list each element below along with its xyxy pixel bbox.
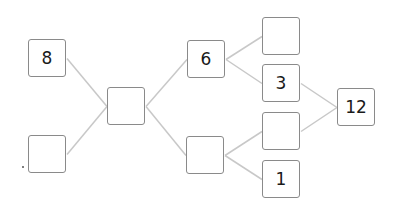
box-12: 12 [337, 88, 375, 126]
box-empty-right-third[interactable] [262, 112, 300, 150]
number-bond-diagram: 8 6 3 1 12 [0, 0, 396, 210]
connector-line [301, 84, 337, 108]
box-empty-center[interactable] [107, 87, 145, 125]
stray-dot [22, 166, 24, 168]
box-1: 1 [262, 160, 300, 198]
box-3: 3 [262, 64, 300, 102]
connector-line [301, 108, 337, 132]
connector-line [67, 107, 107, 155]
connector-line [146, 107, 186, 156]
box-value: 1 [276, 169, 287, 189]
box-value: 3 [276, 73, 287, 93]
box-6: 6 [187, 40, 225, 78]
box-8: 8 [28, 39, 66, 77]
box-empty-lower-mid[interactable] [186, 136, 224, 174]
box-empty-top-right[interactable] [262, 17, 300, 55]
connector-line [225, 132, 262, 156]
box-value: 6 [201, 49, 212, 69]
connector-line [225, 156, 262, 180]
box-value: 12 [345, 97, 367, 117]
connector-line [226, 60, 262, 84]
box-empty-lower-left[interactable] [28, 135, 66, 173]
connector-line [226, 37, 262, 60]
connector-line [146, 60, 187, 107]
box-value: 8 [42, 48, 53, 68]
connector-line [67, 59, 107, 107]
